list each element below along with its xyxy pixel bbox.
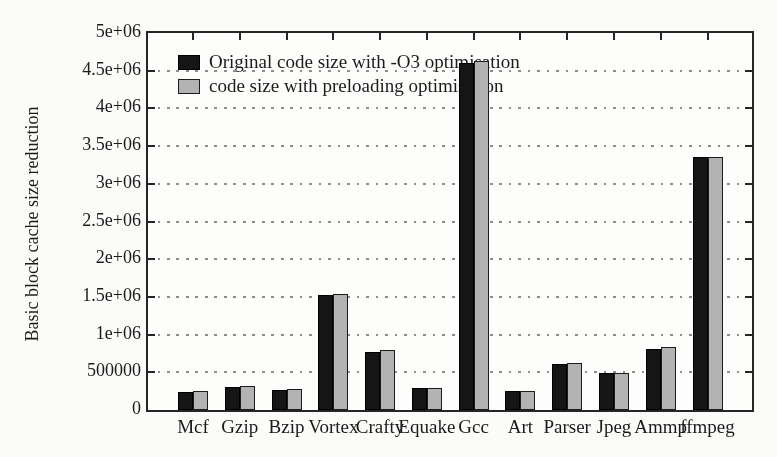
x-tick-mark-top — [473, 33, 475, 40]
x-tick-label: Bzip — [269, 415, 305, 439]
y-tick-label: 5e+06 — [0, 20, 141, 42]
x-tick-label: Gcc — [458, 415, 489, 439]
y-tick-label: 2.5e+06 — [0, 209, 141, 231]
x-tick-label: Jpeg — [597, 415, 632, 439]
y-tick-mark-right — [745, 183, 752, 185]
y-tick-label: 4e+06 — [0, 95, 141, 117]
bar-preloading-ffmpeg — [708, 157, 723, 410]
bar-original-vortex — [318, 295, 333, 410]
bar-original-ammp — [646, 349, 661, 410]
x-tick-mark-top — [332, 33, 334, 40]
x-tick-mark-top — [660, 33, 662, 40]
bar-preloading-jpeg — [614, 373, 629, 410]
x-tick-mark-top — [426, 33, 428, 40]
y-tick-mark-right — [745, 145, 752, 147]
y-tick-mark-left — [148, 371, 155, 373]
y-tick-mark-left — [148, 145, 155, 147]
bar-preloading-bzip — [287, 389, 302, 410]
y-tick-mark-right — [745, 371, 752, 373]
y-tick-mark-left — [148, 296, 155, 298]
gridline — [148, 145, 752, 147]
y-tick-label: 0 — [0, 397, 141, 419]
bar-preloading-crafty — [380, 350, 395, 410]
y-tick-mark-right — [745, 334, 752, 336]
x-tick-mark-top — [192, 33, 194, 40]
gridline — [148, 107, 752, 109]
bar-original-crafty — [365, 352, 380, 410]
y-tick-mark-left — [148, 107, 155, 109]
y-tick-mark-left — [148, 183, 155, 185]
x-tick-label: Mcf — [177, 415, 209, 439]
bar-preloading-vortex — [333, 294, 348, 410]
x-tick-mark-top — [519, 33, 521, 40]
bar-preloading-gcc — [474, 61, 489, 410]
bar-preloading-gzip — [240, 386, 255, 410]
gridline — [148, 221, 752, 223]
gridline — [148, 296, 752, 298]
x-tick-label: Crafty — [356, 415, 405, 439]
bar-original-mcf — [178, 392, 193, 410]
x-tick-label: Parser — [543, 415, 590, 439]
y-tick-label: 4.5e+06 — [0, 58, 141, 80]
bar-original-gcc — [459, 63, 474, 410]
x-tick-label: Equake — [398, 415, 455, 439]
x-tick-label: Gzip — [221, 415, 258, 439]
bar-original-parser — [552, 364, 567, 410]
bar-original-ffmpeg — [693, 157, 708, 410]
gridline — [148, 334, 752, 336]
y-tick-mark-right — [745, 107, 752, 109]
bar-preloading-ammp — [661, 347, 676, 410]
bar-preloading-art — [520, 391, 535, 410]
x-tick-mark-top — [379, 33, 381, 40]
legend-swatch-preloading-icon — [178, 79, 200, 94]
bar-original-jpeg — [599, 373, 614, 410]
bar-preloading-mcf — [193, 391, 208, 410]
bar-preloading-parser — [567, 363, 582, 410]
y-tick-mark-right — [745, 70, 752, 72]
y-tick-mark-left — [148, 334, 155, 336]
x-tick-mark-top — [613, 33, 615, 40]
y-tick-label: 1e+06 — [0, 322, 141, 344]
legend-swatch-original-icon — [178, 55, 200, 70]
x-tick-label: Ammp — [634, 415, 687, 439]
y-tick-mark-right — [745, 258, 752, 260]
y-tick-label: 2e+06 — [0, 246, 141, 268]
gridline — [148, 183, 752, 185]
x-axis-labels: McfGzipBzipVortexCraftyEquakeGccArtParse… — [146, 415, 754, 445]
bar-preloading-equake — [427, 388, 442, 410]
x-tick-mark-top — [286, 33, 288, 40]
bar-original-art — [505, 391, 520, 410]
x-tick-mark-top — [239, 33, 241, 40]
bar-original-equake — [412, 388, 427, 410]
x-tick-label: ffmpeg — [680, 415, 735, 439]
y-tick-mark-left — [148, 221, 155, 223]
x-tick-mark-top — [707, 33, 709, 40]
y-tick-label: 1.5e+06 — [0, 284, 141, 306]
bar-original-gzip — [225, 387, 240, 410]
bar-original-bzip — [272, 390, 287, 411]
bar-chart-figure: Basic block cache size reduction 0500000… — [0, 0, 777, 457]
y-tick-label: 3e+06 — [0, 171, 141, 193]
y-tick-mark-right — [745, 296, 752, 298]
gridline — [148, 70, 752, 72]
x-tick-label: Vortex — [308, 415, 358, 439]
y-tick-mark-left — [148, 258, 155, 260]
gridline — [148, 258, 752, 260]
plot-area: Original code size with -O3 optimisation… — [146, 31, 754, 412]
x-tick-mark-top — [566, 33, 568, 40]
y-tick-label: 500000 — [0, 359, 141, 381]
y-tick-mark-right — [745, 221, 752, 223]
y-tick-mark-left — [148, 70, 155, 72]
y-tick-label: 3.5e+06 — [0, 133, 141, 155]
x-tick-label: Art — [508, 415, 533, 439]
